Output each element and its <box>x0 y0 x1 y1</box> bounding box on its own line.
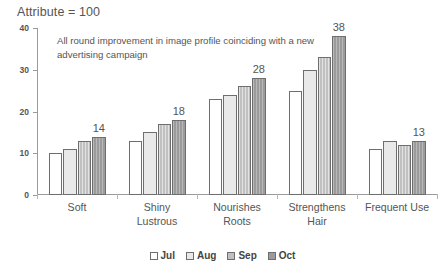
x-axis-tick <box>197 194 198 199</box>
legend-item-sep[interactable]: Sep <box>227 250 256 261</box>
bar-aug-0[interactable] <box>63 149 77 195</box>
bar-jul-1[interactable] <box>129 141 143 195</box>
bar-value-label: 18 <box>173 105 185 117</box>
bar-sep-1[interactable] <box>158 124 172 195</box>
x-axis-category-label: StrengthensHair <box>288 200 345 228</box>
legend-label: Aug <box>197 250 216 261</box>
y-axis-tick-label: 0 <box>0 190 29 200</box>
x-axis-label-line: Shiny <box>137 200 178 214</box>
bar-jul-2[interactable] <box>209 99 223 195</box>
bar-value-label: 13 <box>413 126 425 138</box>
legend-swatch-icon <box>186 252 194 260</box>
legend-label: Sep <box>238 250 256 261</box>
x-axis-label-line: Nourishes <box>213 200 261 214</box>
y-axis-tick <box>33 28 38 29</box>
bar-oct-2[interactable] <box>252 78 266 195</box>
bar-value-label: 14 <box>93 122 105 134</box>
chart-title: Attribute = 100 <box>17 5 100 19</box>
chart-legend: JulAugSepOct <box>0 250 445 261</box>
bar-value-label: 28 <box>253 63 265 75</box>
y-axis-tick-label: 20 <box>0 107 29 117</box>
bar-sep-0[interactable] <box>78 141 92 195</box>
x-axis-label-line: Frequent Use <box>365 200 429 214</box>
x-axis-label-line: Lustrous <box>137 214 178 228</box>
legend-item-jul[interactable]: Jul <box>150 250 175 261</box>
bar-aug-4[interactable] <box>383 141 397 195</box>
y-axis-tick-label: 30 <box>0 65 29 75</box>
bar-group <box>49 28 106 195</box>
y-axis-tick <box>33 153 38 154</box>
x-axis-label-line: Hair <box>288 214 345 228</box>
x-axis-category-label: ShinyLustrous <box>137 200 178 228</box>
y-axis-tick <box>33 112 38 113</box>
bar-group <box>289 28 346 195</box>
x-axis-category-label: NourishesRoots <box>213 200 261 228</box>
x-axis-label-line: Soft <box>68 200 87 214</box>
bar-sep-2[interactable] <box>238 86 252 195</box>
x-axis-category-label: Soft <box>68 200 87 214</box>
x-axis-tick <box>277 194 278 199</box>
plot-area: All round improvement in image profile c… <box>37 28 437 195</box>
bar-group <box>369 28 426 195</box>
legend-label: Jul <box>161 250 175 261</box>
legend-swatch-icon <box>150 252 158 260</box>
bar-aug-3[interactable] <box>303 70 317 195</box>
y-axis-tick <box>33 70 38 71</box>
bar-aug-2[interactable] <box>223 95 237 195</box>
legend-label: Oct <box>279 250 296 261</box>
bar-sep-3[interactable] <box>318 57 332 195</box>
bar-oct-4[interactable] <box>412 141 426 195</box>
bar-group <box>209 28 266 195</box>
x-axis-tick <box>437 194 438 199</box>
bar-jul-3[interactable] <box>289 91 303 195</box>
legend-swatch-icon <box>268 252 276 260</box>
x-axis-label-line: Strengthens <box>288 200 345 214</box>
x-axis-label-line: Roots <box>213 214 261 228</box>
bar-aug-1[interactable] <box>143 132 157 195</box>
bar-jul-0[interactable] <box>49 153 63 195</box>
bar-oct-1[interactable] <box>172 120 186 195</box>
x-axis-category-label: Frequent Use <box>365 200 429 214</box>
x-axis-tick <box>37 194 38 199</box>
x-axis-tick <box>357 194 358 199</box>
legend-item-aug[interactable]: Aug <box>186 250 216 261</box>
bar-oct-0[interactable] <box>92 137 106 195</box>
bar-value-label: 38 <box>333 21 345 33</box>
bar-sep-4[interactable] <box>398 145 412 195</box>
bar-oct-3[interactable] <box>332 36 346 195</box>
bar-chart: Attribute = 100 All round improvement in… <box>0 0 445 279</box>
legend-item-oct[interactable]: Oct <box>268 250 296 261</box>
x-axis-tick <box>117 194 118 199</box>
y-axis-tick-label: 40 <box>0 23 29 33</box>
y-axis-tick-label: 10 <box>0 148 29 158</box>
bar-jul-4[interactable] <box>369 149 383 195</box>
legend-swatch-icon <box>227 252 235 260</box>
